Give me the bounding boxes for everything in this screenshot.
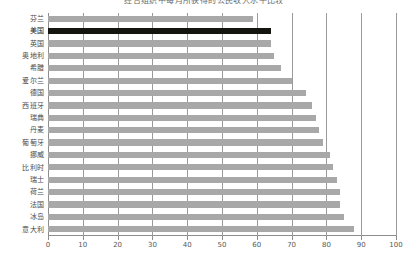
category-axis-labels: 芬兰美国英国奥地利希腊爱尔兰德国西班牙瑞典丹麦葡萄牙挪威比利时瑞士荷兰法国冰岛意… [0, 13, 46, 236]
bar-row [48, 186, 396, 198]
bar-2 [48, 28, 271, 35]
bar-row [48, 50, 396, 62]
bar-16 [48, 201, 340, 207]
bar-12 [48, 152, 330, 158]
category-label-14: 瑞士 [30, 176, 44, 184]
tick-mark-90 [361, 236, 362, 240]
bar-8 [48, 102, 312, 108]
bar-row [48, 162, 396, 174]
category-label-1: 芬兰 [30, 15, 44, 23]
bar-4 [48, 53, 274, 59]
category-label-18: 意大利 [22, 226, 44, 234]
bar-row [48, 125, 396, 137]
category-label-2: 美国 [30, 27, 44, 35]
bar-row [48, 211, 396, 223]
category-label-5: 希腊 [30, 64, 44, 72]
category-label-3: 英国 [30, 40, 44, 48]
tick-mark-40 [187, 236, 188, 240]
bar-5 [48, 65, 281, 71]
category-label-9: 瑞典 [30, 114, 44, 122]
category-label-17: 冰岛 [30, 213, 44, 221]
plot-area [48, 13, 396, 236]
bar-row [48, 199, 396, 211]
bar-10 [48, 127, 319, 133]
tick-mark-70 [292, 236, 293, 240]
category-label-13: 比利时 [22, 164, 44, 172]
category-label-12: 挪威 [30, 151, 44, 159]
tick-mark-0 [48, 236, 49, 240]
bar-13 [48, 164, 333, 170]
bar-14 [48, 177, 337, 183]
tick-mark-30 [152, 236, 153, 240]
bar-1 [48, 16, 253, 22]
bar-row [48, 112, 396, 124]
bar-9 [48, 115, 316, 121]
category-label-6: 爱尔兰 [22, 77, 44, 85]
bar-15 [48, 189, 340, 195]
bar-11 [48, 139, 323, 145]
category-label-4: 奥地利 [22, 52, 44, 60]
tick-label-30: 30 [148, 241, 157, 249]
tick-mark-60 [257, 236, 258, 240]
category-label-7: 德国 [30, 89, 44, 97]
bar-row [48, 100, 396, 112]
bar-row [48, 149, 396, 161]
tick-label-40: 40 [183, 241, 192, 249]
tick-label-0: 0 [46, 241, 50, 249]
bar-7 [48, 90, 306, 96]
bar-row [48, 75, 396, 87]
bar-18 [48, 226, 354, 232]
bar-row [48, 25, 396, 37]
gridline-100 [396, 13, 397, 236]
tick-label-100: 100 [389, 241, 402, 249]
bar-row [48, 174, 396, 186]
chart-title: 经合组织中每月所获得的公民收入水平比较 [0, 0, 408, 4]
tick-label-60: 60 [252, 241, 261, 249]
tick-label-20: 20 [113, 241, 122, 249]
tick-label-90: 90 [357, 241, 366, 249]
bar-row [48, 87, 396, 99]
bar-row [48, 63, 396, 75]
tick-mark-20 [118, 236, 119, 240]
bar-row [48, 13, 396, 25]
bar-row [48, 38, 396, 50]
category-label-11: 葡萄牙 [22, 139, 44, 147]
category-label-10: 丹麦 [30, 126, 44, 134]
tick-mark-10 [83, 236, 84, 240]
tick-mark-80 [326, 236, 327, 240]
bar-17 [48, 214, 344, 220]
value-axis: 0102030405060708090100 [48, 236, 396, 256]
category-label-16: 法国 [30, 201, 44, 209]
tick-mark-100 [396, 236, 397, 240]
category-label-15: 荷兰 [30, 188, 44, 196]
tick-label-80: 80 [322, 241, 331, 249]
bar-chart: 经合组织中每月所获得的公民收入水平比较 芬兰美国英国奥地利希腊爱尔兰德国西班牙瑞… [0, 0, 408, 256]
tick-label-10: 10 [78, 241, 87, 249]
bar-6 [48, 78, 292, 84]
tick-label-70: 70 [287, 241, 296, 249]
category-label-8: 西班牙 [22, 102, 44, 110]
bar-row [48, 137, 396, 149]
tick-mark-50 [222, 236, 223, 240]
bar-row [48, 224, 396, 236]
bars-container [48, 13, 396, 236]
bar-3 [48, 40, 271, 46]
tick-label-50: 50 [218, 241, 227, 249]
